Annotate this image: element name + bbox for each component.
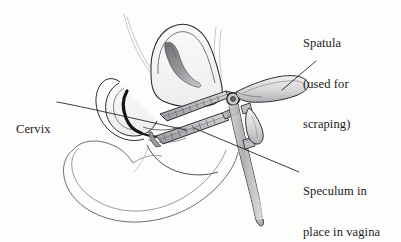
label-cervix-line1: Cervix	[16, 123, 51, 137]
pelvic-exam-figure: Spatula (used for scraping) Cervix Specu…	[0, 0, 401, 242]
label-speculum-line2: place in vagina	[303, 226, 380, 240]
label-spatula-line3: scraping)	[303, 118, 350, 132]
label-speculum: Speculum in place in vagina	[303, 158, 380, 242]
label-cervix: Cervix	[16, 96, 51, 164]
label-spatula: Spatula (used for scraping)	[303, 10, 350, 159]
label-spatula-line2: (used for	[303, 78, 350, 92]
label-speculum-line1: Speculum in	[303, 185, 380, 199]
speculum-pivot-screw	[231, 97, 236, 102]
label-spatula-line1: Spatula	[303, 37, 350, 51]
